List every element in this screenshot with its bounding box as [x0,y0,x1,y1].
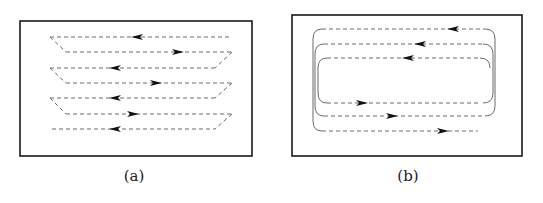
transition-line [215,114,232,129]
loop-middle-left [315,44,324,116]
figure-canvas: (a) (b) [0,0,543,203]
transition-line [50,68,66,83]
loop-middle-right [483,44,493,103]
panel-a-frame [20,21,252,156]
transition-line [215,83,232,98]
transition-line [50,37,66,52]
arrow-left-icon [109,65,121,71]
arrow-left-icon [109,95,121,101]
panel-b: (b) [292,15,522,185]
transition-line [50,98,66,114]
loop-inner-right [480,58,490,68]
panel-b-frame [292,15,522,156]
arrow-right-icon [127,111,139,117]
loop-inner-left [318,58,327,103]
arrow-left-icon [109,126,121,132]
arrow-right-icon [437,128,449,134]
panel-a-caption: (a) [124,167,145,185]
panel-a: (a) [20,21,252,185]
transition-line [215,52,232,68]
panel-b-caption: (b) [397,167,418,185]
